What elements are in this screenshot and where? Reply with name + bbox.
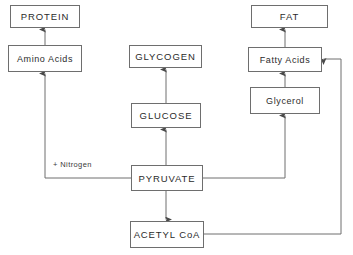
node-acetyl-coa[interactable]: ACETYL CoA [130,221,204,248]
node-glycogen-label: GLYCOGEN [135,51,195,62]
node-glucose[interactable]: GLUCOSE [131,103,201,128]
node-fat-label: FAT [280,11,299,22]
edge-label-nitrogen-text: + Nitrogen [53,160,92,169]
node-glycogen[interactable]: GLYCOGEN [129,45,202,68]
edge-acetylcoa-to-fattyacids [204,59,341,234]
node-glycerol-label: Glycerol [266,96,304,106]
metabolic-pathway-diagram: PROTEIN Amino Acids GLYCOGEN GLUCOSE FAT… [0,0,353,255]
node-acetyl-coa-label: ACETYL CoA [134,229,201,240]
edge-pyruvate-to-glycerol [203,116,285,179]
node-glucose-label: GLUCOSE [140,110,193,121]
node-glycerol[interactable]: Glycerol [250,87,320,114]
node-fatty-acids-label: Fatty Acids [260,55,311,65]
node-protein[interactable]: PROTEIN [10,5,80,28]
node-pyruvate[interactable]: PYRUVATE [131,165,203,191]
node-protein-label: PROTEIN [21,11,70,22]
node-fat[interactable]: FAT [251,5,328,28]
node-amino-acids[interactable]: Amino Acids [8,45,82,72]
edge-label-nitrogen: + Nitrogen [52,160,93,169]
node-amino-acids-label: Amino Acids [17,54,73,64]
node-fatty-acids[interactable]: Fatty Acids [248,47,322,72]
node-pyruvate-label: PYRUVATE [139,173,196,184]
